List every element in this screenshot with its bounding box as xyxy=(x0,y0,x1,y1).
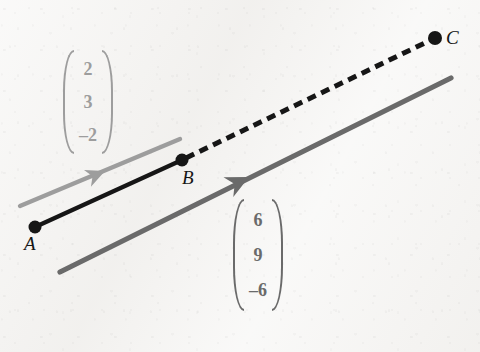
point-c-dot xyxy=(428,31,442,45)
point-b-dot xyxy=(176,154,189,167)
vector-ac-component-1: 6 xyxy=(254,211,263,229)
segment-b-c xyxy=(186,40,431,158)
vector-arrow-ab-head xyxy=(84,163,108,187)
vector-label-ac: 6 9 –6 xyxy=(229,199,287,311)
bracket-right-icon xyxy=(102,50,113,154)
vector-arrow-ac-head xyxy=(224,167,254,197)
vector-ab-component-2: 3 xyxy=(84,93,93,111)
vector-diagram-figure: A B C 2 3 –2 6 9 –6 xyxy=(0,0,480,352)
point-a-dot xyxy=(29,221,42,234)
vector-label-ab: 2 3 –2 xyxy=(62,50,114,154)
vector-ab-component-3: –2 xyxy=(79,126,97,144)
bracket-right-icon xyxy=(272,199,283,311)
point-label-a: A xyxy=(24,234,36,253)
vector-ab-component-1: 2 xyxy=(84,60,93,78)
vector-ac-component-3: –6 xyxy=(249,281,267,299)
vector-ac-component-2: 9 xyxy=(254,246,263,264)
vector-components-ab: 2 3 –2 xyxy=(75,50,101,154)
bracket-left-icon xyxy=(233,199,244,311)
bracket-left-icon xyxy=(63,50,74,154)
point-label-b: B xyxy=(182,168,194,187)
point-label-c: C xyxy=(446,28,459,47)
vector-components-ac: 6 9 –6 xyxy=(245,199,271,311)
